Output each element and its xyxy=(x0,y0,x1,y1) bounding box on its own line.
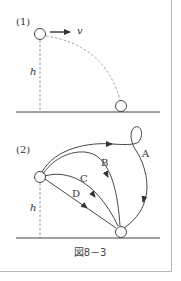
figure-caption: 図8－3 xyxy=(74,247,107,258)
arrow-icon xyxy=(92,193,95,197)
ball-end xyxy=(116,101,127,112)
ball-end xyxy=(116,227,127,238)
arrow-icon xyxy=(83,205,87,208)
part-1-label: (1) xyxy=(16,16,30,27)
arrow-icon xyxy=(106,173,108,177)
height-label: h xyxy=(30,66,36,77)
part-2-label: (2) xyxy=(16,144,30,155)
path-b xyxy=(43,152,120,226)
physics-diagram: (1) v h (2) h A B C D 図8－3 xyxy=(0,0,181,281)
part-2-diagram: (2) h A B C D xyxy=(16,127,160,238)
path-c-label: C xyxy=(80,173,88,184)
ball-start xyxy=(35,29,46,40)
path-a-label: A xyxy=(141,148,150,159)
trajectory-dashed xyxy=(46,36,120,100)
path-d-label: D xyxy=(72,188,80,199)
arrow-icon xyxy=(143,198,144,202)
path-b-label: B xyxy=(101,157,108,168)
part-1-diagram: (1) v h xyxy=(16,16,160,112)
height-label: h xyxy=(30,202,36,213)
velocity-label: v xyxy=(77,25,83,36)
